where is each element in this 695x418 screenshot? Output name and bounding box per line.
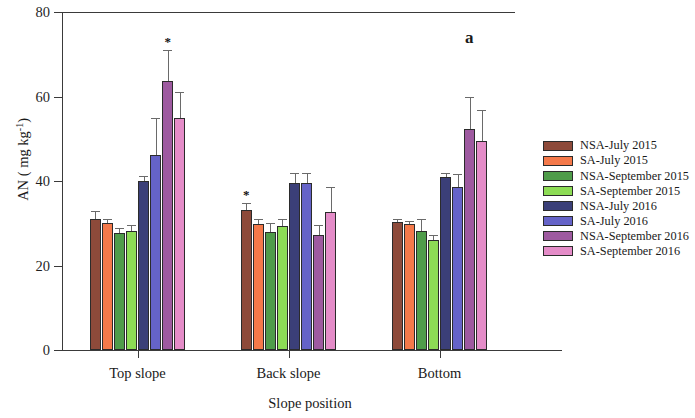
y-axis-tick	[54, 97, 62, 98]
y-axis-tick-label: 40	[8, 174, 50, 189]
error-bar	[180, 92, 181, 118]
error-bar-cap	[175, 92, 184, 93]
bar	[90, 219, 101, 350]
x-axis-tick	[289, 350, 290, 358]
bar	[404, 224, 415, 350]
bar	[102, 223, 113, 350]
error-bar-cap	[465, 97, 474, 98]
x-axis-category-label: Back slope	[219, 365, 359, 382]
error-bar-cap	[254, 219, 263, 220]
legend-item: SA-September 2015	[543, 183, 693, 198]
significance-star: *	[161, 35, 175, 48]
error-bar	[95, 211, 96, 219]
bar	[452, 187, 463, 350]
significance-star: *	[239, 188, 253, 201]
error-bar	[458, 174, 459, 187]
error-bar-cap	[405, 221, 414, 222]
bar	[150, 155, 161, 350]
error-bar-cap	[453, 174, 462, 175]
y-axis-tick-label: 0	[8, 343, 50, 358]
y-axis-title-main: AN ( mg kg	[15, 131, 31, 201]
y-axis-title-tail: )	[15, 118, 31, 123]
error-bar-cap	[115, 228, 124, 229]
error-bar	[156, 118, 157, 155]
error-bar	[307, 173, 308, 183]
x-axis-tick	[440, 350, 441, 358]
error-bar	[246, 203, 247, 210]
legend-label: NSA-September 2016	[580, 230, 689, 242]
error-bar-cap	[163, 50, 172, 51]
x-axis-category-label: Top slope	[68, 365, 208, 382]
error-bar-cap	[417, 219, 426, 220]
bar	[301, 183, 312, 350]
legend-label: SA-September 2015	[580, 185, 680, 197]
error-bar	[421, 219, 422, 231]
error-bar-cap	[290, 173, 299, 174]
y-axis-tick	[54, 12, 62, 13]
y-axis-title: AN ( mg kg-1)	[14, 84, 33, 234]
legend-label: SA-July 2016	[580, 215, 648, 227]
error-bar-cap	[326, 187, 335, 188]
error-bar-cap	[393, 219, 402, 220]
bar	[428, 240, 439, 350]
panel-label: a	[465, 28, 474, 48]
legend-item: SA-July 2016	[543, 213, 693, 228]
error-bar-cap	[314, 225, 323, 226]
bar	[138, 181, 149, 350]
legend-swatch	[543, 201, 573, 211]
y-axis-tick	[54, 181, 62, 182]
bar	[416, 231, 427, 350]
error-bar-cap	[91, 211, 100, 212]
y-axis-tick	[54, 350, 62, 351]
error-bar-cap	[477, 110, 486, 111]
legend-label: SA-July 2015	[580, 154, 648, 166]
legend-swatch	[543, 216, 573, 226]
bar	[289, 183, 300, 350]
legend-label: NSA-July 2016	[580, 200, 657, 212]
legend-swatch	[543, 141, 573, 151]
bar	[277, 226, 288, 350]
error-bar	[295, 173, 296, 182]
legend-item: NSA-July 2016	[543, 198, 693, 213]
legend-swatch	[543, 246, 573, 256]
bar	[162, 81, 173, 350]
bar	[464, 129, 475, 350]
bar	[325, 212, 336, 350]
error-bar-cap	[302, 173, 311, 174]
error-bar	[482, 110, 483, 141]
bar	[440, 177, 451, 350]
error-bar	[270, 223, 271, 232]
y-axis-title-superscript: -1	[14, 123, 25, 131]
error-bar-cap	[242, 203, 251, 204]
legend-item: SA-July 2015	[543, 153, 693, 168]
legend: NSA-July 2015SA-July 2015NSA-September 2…	[543, 138, 693, 259]
bar	[476, 141, 487, 350]
legend-item: NSA-September 2016	[543, 229, 693, 244]
error-bar-cap	[441, 173, 450, 174]
legend-item: NSA-July 2015	[543, 138, 693, 153]
error-bar-cap	[278, 219, 287, 220]
x-axis-tick	[138, 350, 139, 358]
y-axis-tick	[54, 266, 62, 267]
error-bar-cap	[151, 118, 160, 119]
error-bar-cap	[429, 235, 438, 236]
legend-item: SA-September 2016	[543, 244, 693, 259]
error-bar-cap	[103, 219, 112, 220]
error-bar	[331, 187, 332, 212]
legend-item: NSA-September 2015	[543, 168, 693, 183]
legend-swatch	[543, 171, 573, 181]
error-bar	[470, 97, 471, 130]
x-axis-category-label: Bottom	[370, 365, 510, 382]
bar	[392, 222, 403, 350]
y-axis-tick-label: 80	[8, 5, 50, 20]
error-bar	[319, 225, 320, 235]
bar	[114, 233, 125, 350]
y-axis-tick-label: 20	[8, 259, 50, 274]
bars-layer: **	[62, 12, 515, 350]
chart-figure: AN ( mg kg-1) 020406080 ** Top slopeBack…	[0, 0, 695, 418]
legend-swatch	[543, 186, 573, 196]
bar	[174, 118, 185, 350]
legend-label: NSA-September 2015	[580, 170, 689, 182]
legend-label: NSA-July 2015	[580, 139, 657, 151]
legend-swatch	[543, 156, 573, 166]
